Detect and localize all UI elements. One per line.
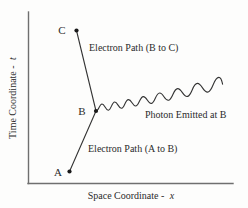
point-label-b: B — [78, 105, 85, 117]
annotation-labels-group: Electron Path (B to C) Photon Emitted at… — [88, 42, 227, 155]
electron-path-b-to-c-label: Electron Path (B to C) — [89, 42, 178, 54]
point-label-a: A — [54, 166, 62, 178]
point-b-dot — [94, 109, 98, 113]
axes-group — [28, 12, 233, 184]
y-axis-symbol: t — [7, 57, 18, 60]
x-axis-symbol: x — [169, 190, 175, 201]
photon-wave-path — [96, 77, 223, 111]
electron-path-a-to-b-line — [70, 111, 97, 172]
x-axis-title-text: Space Coordinate - — [88, 190, 165, 201]
y-axis-title: Time Coordinate - t — [7, 57, 18, 139]
point-label-c: C — [58, 24, 65, 36]
point-a-dot — [67, 169, 71, 173]
x-axis-title: Space Coordinate - x — [88, 190, 175, 201]
spacetime-diagram-figure: A B C Electron Path (B to C) Photon Emit… — [0, 0, 248, 208]
photon-wave-group — [96, 77, 223, 111]
point-c-dot — [74, 28, 78, 32]
axis-titles-group: Space Coordinate - x Time Coordinate - t — [7, 57, 175, 201]
figure-canvas: A B C Electron Path (B to C) Photon Emit… — [0, 0, 248, 208]
electron-path-a-to-b-label: Electron Path (A to B) — [88, 143, 177, 155]
y-axis-title-text: Time Coordinate - — [7, 65, 18, 139]
photon-wave-label: Photon Emitted at B — [145, 109, 227, 120]
